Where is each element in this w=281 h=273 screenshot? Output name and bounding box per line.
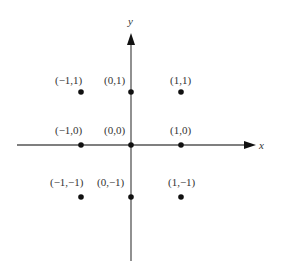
point-dot	[128, 194, 134, 200]
point-label: (1,−1)	[168, 176, 196, 189]
point-1-0: (1,0)	[170, 124, 191, 148]
x-axis-arrow-icon	[244, 141, 256, 149]
point-1-neg1: (1,−1)	[168, 176, 196, 200]
point-0-0: (0,0)	[104, 124, 134, 148]
point-label: (−1,−1)	[50, 176, 84, 189]
point-1-1: (1,1)	[170, 74, 191, 95]
point-label: (1,1)	[170, 74, 191, 87]
lattice-point-diagram: x y (−1,1) (0,1) (1,1) (−1,0) (0,0) (1,0…	[0, 0, 281, 273]
point-dot	[178, 89, 184, 95]
x-axis-label: x	[258, 139, 264, 151]
point-neg1-neg1: (−1,−1)	[50, 176, 84, 200]
point-label: (0,0)	[104, 124, 125, 137]
point-dot	[178, 142, 184, 148]
point-label: (0,−1)	[97, 176, 125, 189]
point-dot	[128, 89, 134, 95]
point-neg1-0: (−1,0)	[55, 124, 84, 148]
point-label: (−1,1)	[55, 74, 83, 87]
point-0-neg1: (0,−1)	[97, 176, 134, 200]
point-label: (0,1)	[104, 74, 125, 87]
point-dot	[78, 142, 84, 148]
point-label: (1,0)	[170, 124, 191, 137]
point-neg1-1: (−1,1)	[55, 74, 84, 95]
point-dot	[128, 142, 134, 148]
point-dot	[78, 194, 84, 200]
y-axis-arrow-icon	[127, 33, 135, 45]
point-0-1: (0,1)	[104, 74, 134, 95]
point-dot	[78, 89, 84, 95]
point-label: (−1,0)	[55, 124, 83, 137]
point-dot	[178, 194, 184, 200]
y-axis-label: y	[127, 15, 133, 27]
